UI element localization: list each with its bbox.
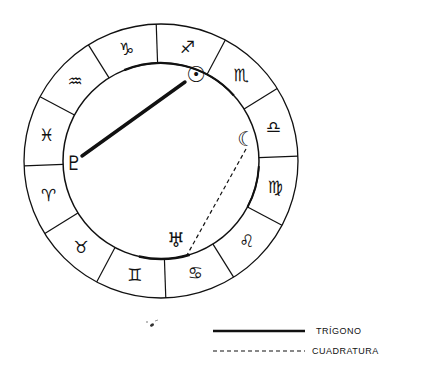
stray-ink-mark (146, 320, 158, 327)
sign-libra-icon: ♎ (266, 117, 281, 137)
sign-divider (156, 24, 157, 63)
legend-trigono-label: TRÍGONO (316, 326, 362, 336)
astrological-chart: ♐♑♒♓♈♉♊♋♌♍♎♏ ☉☾♇♅ (0, 0, 424, 382)
legend (213, 331, 305, 351)
aspect-cuadratura-line (187, 149, 246, 255)
sign-taurus-icon: ♉ (73, 237, 88, 257)
sign-divider (24, 164, 63, 165)
planet-pluto-icon: ♇ (65, 151, 83, 175)
sign-divider (45, 213, 78, 234)
sign-gemini-icon: ♊ (127, 265, 142, 285)
planet-moon-icon: ☾ (237, 127, 255, 151)
sign-divider (248, 207, 282, 225)
sign-virgo-icon: ♍ (268, 177, 283, 197)
inner-arc-emphasis (139, 255, 190, 259)
sign-divider (88, 45, 109, 78)
sign-divider (40, 97, 74, 115)
sign-divider (97, 248, 115, 282)
sign-divider (213, 244, 234, 277)
aspect-trigono-line (82, 82, 185, 156)
sign-divider (244, 88, 277, 109)
aspect-lines (82, 82, 246, 255)
inner-arc-emphasis (248, 166, 259, 207)
legend-cuadratura-label: CUADRATURA (312, 346, 379, 356)
sign-leo-icon: ♌ (239, 231, 254, 251)
planet-uranus-icon: ♅ (167, 228, 185, 252)
sign-divider (164, 259, 165, 298)
planet-sun-icon: ☉ (186, 62, 206, 87)
sign-divider (259, 156, 298, 157)
inner-arc-emphasis (124, 63, 234, 95)
sign-divider (207, 40, 225, 74)
sign-cancer-icon: ♋ (188, 263, 203, 283)
sign-scorpio-icon: ♏ (234, 65, 249, 85)
sign-aquarius-icon: ♒ (67, 71, 82, 91)
sign-capricorn-icon: ♑ (119, 39, 134, 59)
sign-pisces-icon: ♓ (39, 125, 54, 145)
sign-sagittarius-icon: ♐ (180, 37, 195, 57)
sign-aries-icon: ♈ (41, 185, 56, 205)
